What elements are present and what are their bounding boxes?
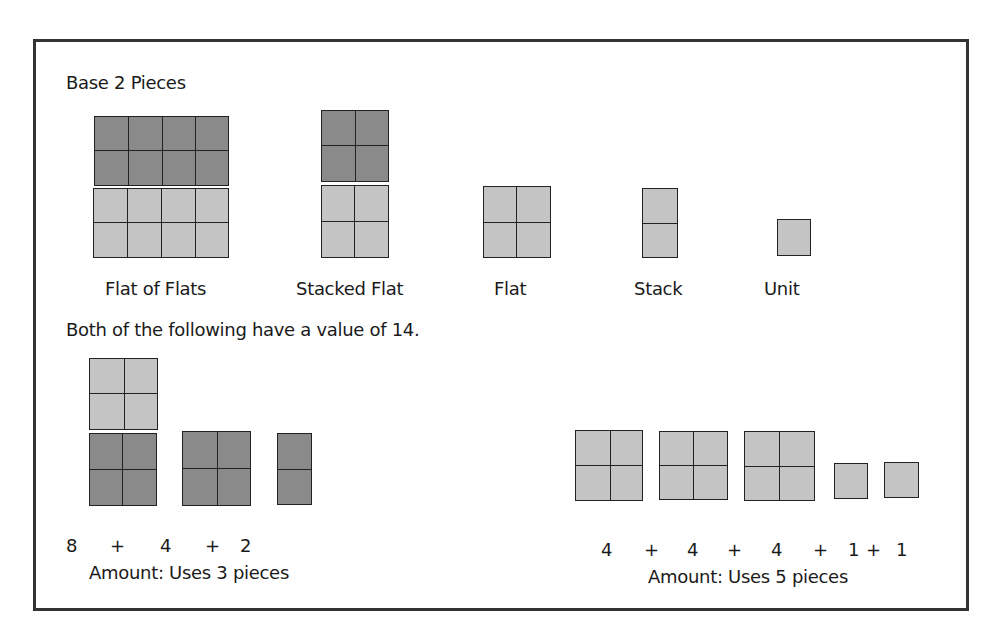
example2-unit-2 — [884, 462, 919, 498]
stack-piece — [642, 188, 678, 258]
example1-flat — [182, 431, 251, 506]
label-flat-of-flats: Flat of Flats — [105, 278, 206, 299]
eq2-term-5: 1 — [896, 539, 907, 560]
example1-stack — [277, 433, 312, 505]
label-flat: Flat — [494, 278, 526, 299]
example2-unit-1 — [834, 463, 868, 499]
label-stacked-flat: Stacked Flat — [296, 278, 403, 299]
eq1-term-2: 4 — [160, 535, 171, 556]
eq2-term-4: 1 — [848, 539, 859, 560]
eq1-term-3: 2 — [240, 535, 251, 556]
eq2-plus-1: + — [644, 539, 659, 560]
label-unit: Unit — [764, 278, 799, 299]
label-stack: Stack — [634, 278, 682, 299]
example1-amount: Amount: Uses 3 pieces — [89, 562, 289, 583]
unit-piece — [777, 219, 811, 256]
eq1-plus-1: + — [110, 535, 125, 556]
eq1-term-1: 8 — [66, 535, 77, 556]
example2-amount: Amount: Uses 5 pieces — [648, 566, 848, 587]
eq2-plus-4: + — [866, 539, 881, 560]
example2-flat-1 — [575, 430, 643, 501]
example2-flat-3 — [744, 431, 815, 501]
example1-stacked-flat — [89, 358, 158, 506]
subtitle: Both of the following have a value of 14… — [66, 319, 419, 340]
eq2-term-1: 4 — [601, 539, 612, 560]
eq2-term-3: 4 — [771, 539, 782, 560]
flat-of-flats-piece — [94, 116, 229, 258]
eq2-plus-3: + — [813, 539, 828, 560]
stacked-flat-piece — [321, 110, 389, 258]
eq2-plus-2: + — [727, 539, 742, 560]
flat-piece — [483, 186, 551, 258]
eq2-term-2: 4 — [687, 539, 698, 560]
example2-flat-2 — [659, 431, 728, 500]
title: Base 2 Pieces — [66, 72, 186, 93]
eq1-plus-2: + — [205, 535, 220, 556]
